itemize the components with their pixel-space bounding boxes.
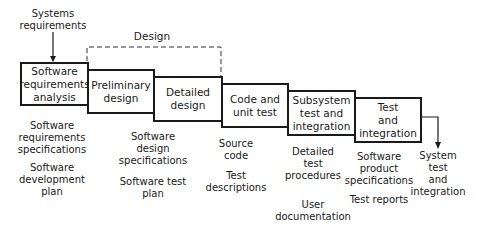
phase-subsystem-test: Subsystem test and integration bbox=[287, 90, 356, 136]
phase-code-unit-test: Code and unit test bbox=[221, 83, 289, 128]
phase-test-integration: Test and integration bbox=[354, 97, 422, 143]
phase-detailed-design: Detailed design bbox=[153, 76, 223, 122]
system-test-label: System test and integration bbox=[411, 150, 466, 198]
output-test-plan: Software test plan bbox=[120, 176, 186, 200]
output-test-reports: Test reports bbox=[350, 194, 409, 206]
design-group-label: Design bbox=[134, 30, 170, 42]
output-srs: Software requirements specifications bbox=[18, 120, 86, 156]
output-test-descriptions: Test descriptions bbox=[206, 170, 267, 194]
phase-preliminary-design: Preliminary design bbox=[87, 69, 155, 114]
phase-requirements-analysis: Software requirements analysis bbox=[20, 62, 89, 106]
output-sds: Software design specifications bbox=[119, 131, 187, 167]
output-dev-plan: Software development plan bbox=[19, 162, 85, 198]
output-test-procedures: Detailed test procedures bbox=[285, 146, 341, 182]
output-product-specs: Software product specifications bbox=[345, 151, 413, 187]
output-user-docs: User documentation bbox=[275, 199, 351, 223]
output-source-code: Source code bbox=[219, 138, 253, 162]
systems-requirements-label: Systems requirements bbox=[20, 8, 87, 32]
